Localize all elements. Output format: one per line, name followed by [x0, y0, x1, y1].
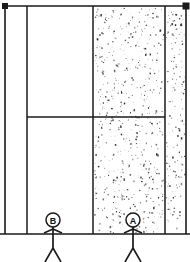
- stipple-dot: [145, 211, 146, 212]
- stipple-dot: [168, 31, 170, 33]
- stipple-dot: [115, 208, 116, 209]
- stipple-dot: [175, 66, 177, 68]
- stipple-dot: [160, 87, 162, 89]
- stipple-dot: [97, 39, 99, 41]
- stipple-dot: [111, 120, 112, 122]
- stipple-dot: [101, 134, 102, 135]
- stipple-dot: [96, 192, 97, 193]
- stipple-dot: [95, 188, 96, 189]
- stipple-dot: [146, 24, 147, 25]
- stipple-dot: [139, 131, 140, 132]
- stipple-dot: [107, 217, 108, 218]
- stipple-dot: [110, 231, 112, 233]
- stipple-dot: [158, 197, 159, 199]
- stipple-dot: [153, 27, 154, 28]
- stipple-dot: [179, 186, 180, 187]
- stipple-dot: [106, 187, 107, 188]
- stipple-dot: [154, 73, 155, 74]
- stipple-dot: [176, 79, 177, 80]
- stipple-dot: [126, 26, 127, 27]
- stipple-dot: [128, 32, 129, 33]
- stipple-dot: [126, 138, 127, 139]
- diagram-canvas: AB: [0, 0, 190, 262]
- stipple-dot: [181, 84, 182, 85]
- stipple-dot: [144, 48, 145, 49]
- stipple-dot: [127, 42, 128, 43]
- stipple-dot: [175, 24, 176, 26]
- stipple-dot: [169, 101, 170, 102]
- stipple-dot: [149, 212, 151, 214]
- stipple-dot: [141, 94, 142, 95]
- stipple-dot: [140, 164, 141, 165]
- stipple-dot: [168, 221, 169, 222]
- stipple-dot: [105, 19, 106, 20]
- stipple-dot: [114, 87, 115, 89]
- stipple-dot: [175, 171, 176, 172]
- stipple-dot: [100, 14, 102, 16]
- stipple-dot: [100, 96, 101, 97]
- stipple-dot: [140, 202, 141, 203]
- stipple-dot: [109, 160, 110, 161]
- stipple-dot: [120, 15, 121, 16]
- stipple-dot: [116, 177, 118, 179]
- stipple-dot: [162, 196, 163, 197]
- stipple-dot: [151, 20, 152, 21]
- stipple-dot: [180, 71, 181, 72]
- stipple-dot: [168, 203, 169, 204]
- stipple-dot: [182, 43, 183, 44]
- stipple-dot: [99, 113, 100, 115]
- stipple-dot: [150, 54, 151, 56]
- stipple-dot: [138, 175, 139, 176]
- stipple-dot: [114, 38, 116, 40]
- stipple-dot: [120, 154, 121, 155]
- stipple-dot: [159, 128, 160, 129]
- stipple-dot: [148, 190, 149, 191]
- stipple-dot: [149, 78, 150, 79]
- stipple-dot: [95, 16, 97, 18]
- stipple-dot: [146, 99, 147, 100]
- stipple-dot: [102, 208, 103, 209]
- stipple-dot: [177, 187, 178, 188]
- stipple-dot: [174, 57, 176, 59]
- stipple-dot: [121, 104, 122, 105]
- stipple-dot: [142, 169, 143, 170]
- stipple-dot: [118, 215, 119, 216]
- stipple-dot: [103, 28, 104, 29]
- stipple-dot: [106, 20, 107, 21]
- stipple-dot: [130, 174, 132, 176]
- stipple-dot: [180, 141, 181, 142]
- stipple-dot: [132, 155, 133, 156]
- stipple-dot: [121, 194, 122, 195]
- stipple-dot: [111, 15, 112, 16]
- stipple-dot: [135, 232, 137, 234]
- stipple-dot: [169, 163, 170, 164]
- stipple-dot: [154, 222, 155, 223]
- stipple-dot: [97, 193, 98, 194]
- stipple-dot: [102, 94, 103, 95]
- stipple-dot: [153, 231, 154, 232]
- stipple-dot: [133, 102, 134, 103]
- stipple-dot: [148, 174, 149, 175]
- stipple-dot: [180, 121, 181, 122]
- stipple-dot: [176, 228, 177, 229]
- stipple-dot: [116, 38, 117, 39]
- stipple-dot: [136, 136, 138, 138]
- stipple-dot: [125, 40, 126, 41]
- stipple-dot: [124, 50, 125, 51]
- stipple-dot: [116, 211, 117, 212]
- stipple-dot: [104, 59, 105, 60]
- stipple-dot: [169, 124, 170, 125]
- stipple-dot: [181, 177, 182, 178]
- stipple-dot: [95, 55, 97, 56]
- stipple-dot: [132, 59, 133, 60]
- stipple-dot: [157, 149, 158, 150]
- stipple-dot: [135, 124, 136, 126]
- stipple-dot: [149, 106, 150, 107]
- stipple-dot: [182, 86, 183, 87]
- stipple-dot: [115, 144, 116, 145]
- stipple-dot: [120, 26, 121, 27]
- stipple-dot: [121, 134, 122, 135]
- stipple-dot: [157, 169, 158, 170]
- stipple-dot: [152, 59, 153, 60]
- stipple-dot: [167, 71, 168, 72]
